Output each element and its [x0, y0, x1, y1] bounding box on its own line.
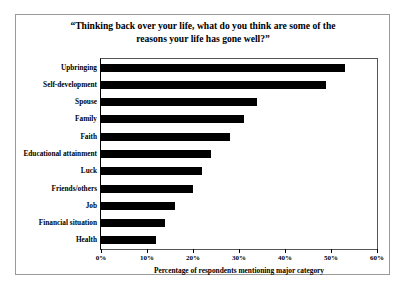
bar-row: Friends/others [101, 180, 377, 197]
bar-row: Health [101, 232, 377, 249]
x-axis-tick-label: 50% [324, 254, 338, 262]
bar-row: Upbringing [101, 59, 377, 76]
bar-row: Job [101, 197, 377, 214]
x-axis-tick-label: 40% [278, 254, 292, 262]
bar-row: Family [101, 111, 377, 128]
x-axis-tick-label: 20% [186, 254, 200, 262]
chart-title-line-2: reasons your life has gone well?” [44, 33, 362, 46]
bar-row: Faith [101, 128, 377, 145]
plot-area: UpbringingSelf-developmentSpouseFamilyFa… [100, 58, 378, 250]
x-axis-tick [331, 249, 332, 253]
category-label: Spouse [75, 98, 97, 106]
category-label: Faith [80, 133, 97, 141]
x-axis-tick [285, 249, 286, 253]
category-label: Job [86, 202, 97, 210]
bar-row: Self-development [101, 76, 377, 93]
x-axis-tick-label: 60% [370, 254, 384, 262]
bar [101, 150, 211, 158]
category-label: Self-development [43, 81, 97, 89]
category-label: Upbringing [61, 64, 97, 72]
bar [101, 236, 156, 244]
x-axis-label: Percentage of respondents mentioning maj… [101, 266, 377, 275]
bar [101, 64, 345, 72]
x-axis-tick [377, 249, 378, 253]
bar [101, 115, 244, 123]
chart-title: “Thinking back over your life, what do y… [44, 20, 362, 45]
category-label: Health [76, 236, 97, 244]
bar [101, 167, 202, 175]
bar-row: Spouse [101, 94, 377, 111]
bar [101, 185, 193, 193]
x-axis-tick [101, 249, 102, 253]
bar [101, 202, 175, 210]
x-axis-tick [147, 249, 148, 253]
bar [101, 98, 257, 106]
category-label: Luck [81, 167, 97, 175]
category-label: Educational attainment [23, 150, 97, 158]
bar [101, 81, 326, 89]
chart-figure: “Thinking back over your life, what do y… [15, 14, 390, 275]
category-label: Financial situation [39, 219, 97, 227]
chart-title-line-1: “Thinking back over your life, what do y… [44, 20, 362, 33]
x-axis-tick [193, 249, 194, 253]
bar-row: Educational attainment [101, 145, 377, 162]
x-axis-tick-label: 10% [140, 254, 154, 262]
x-axis-tick-label: 0% [96, 254, 107, 262]
x-axis-tick [239, 249, 240, 253]
bar [101, 219, 165, 227]
category-label: Friends/others [52, 185, 97, 193]
bar-row: Financial situation [101, 214, 377, 231]
bar [101, 133, 230, 141]
bar-row: Luck [101, 163, 377, 180]
category-label: Family [75, 115, 97, 123]
x-axis-tick-label: 30% [232, 254, 246, 262]
